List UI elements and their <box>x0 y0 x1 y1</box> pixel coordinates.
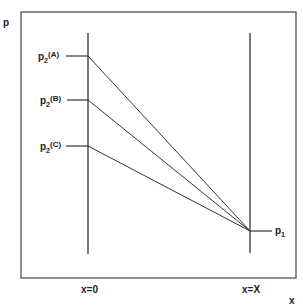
label-x-zero: x=0 <box>81 285 98 295</box>
label-p2C: p2(C) <box>40 141 61 154</box>
label-p2B: p2(B) <box>40 95 61 108</box>
frame <box>21 12 296 278</box>
label-x-X: x=X <box>242 285 260 295</box>
gradient-line-C <box>88 146 250 231</box>
label-p1: p1 <box>275 226 285 238</box>
gradient-line-A <box>88 56 250 231</box>
y-axis-label: p <box>3 18 9 28</box>
x-axis-label: x <box>289 296 295 306</box>
label-p2A: p2(A) <box>38 51 59 64</box>
gradient-line-B <box>88 100 250 231</box>
